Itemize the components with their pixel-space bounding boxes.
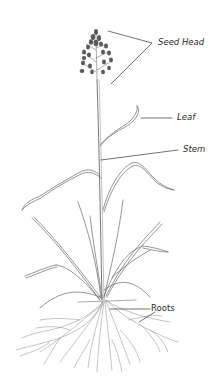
left-leaf <box>22 170 101 210</box>
label-lines <box>101 31 178 322</box>
right-leaf <box>103 162 174 212</box>
roots-label: Roots <box>151 304 175 313</box>
stem <box>97 80 104 300</box>
basal-leaves <box>25 200 168 308</box>
stem-label: Stem <box>183 145 205 154</box>
stem-pointer <box>101 150 178 160</box>
upper-leaf <box>100 106 139 146</box>
leaf-label: Leaf <box>177 113 195 122</box>
seed-head-bracket <box>108 31 152 84</box>
grass-plant-diagram <box>0 0 216 386</box>
seed-head-label: Seed Head <box>158 38 204 47</box>
